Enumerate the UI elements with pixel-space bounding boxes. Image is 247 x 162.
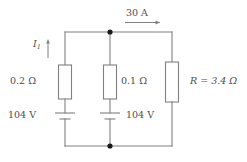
- branch-current-subscript: 1: [37, 43, 41, 51]
- resistor-middle-label: 0.1 Ω: [121, 76, 147, 86]
- resistor-left-symbol: [59, 65, 72, 99]
- resistor-middle-symbol: [104, 65, 117, 99]
- resistor-left-label: 0.2 Ω: [10, 76, 36, 86]
- top-junction-node: [107, 29, 112, 34]
- resistor-right-symbol: [166, 62, 179, 102]
- source-right-label: 104 V: [126, 110, 154, 120]
- total-current-label: 30 A: [126, 8, 148, 18]
- bottom-junction-node: [107, 143, 112, 148]
- branch-current-label: I1: [33, 39, 41, 50]
- source-left-label: 104 V: [8, 110, 36, 120]
- resistor-right-label: R = 3.4 Ω: [190, 76, 237, 86]
- circuit-diagram-page: 30 A I1 0.2 Ω 0.1 Ω R = 3.4 Ω 104 V 104 …: [0, 0, 247, 162]
- total-current-arrow-head: [156, 21, 161, 25]
- branch-current-arrow-head: [46, 39, 50, 44]
